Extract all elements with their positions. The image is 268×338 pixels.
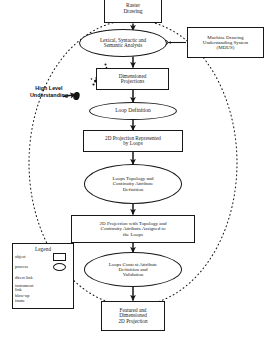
node-projection-with-topology-label: 2D Projection with Topology andContinuit…: [99, 221, 168, 236]
node-loops-topology-label: Loops Topology andContinuity AttributeDe…: [111, 176, 154, 191]
legend-item-process-label: process: [15, 265, 48, 269]
legend-item-process: process: [13, 262, 73, 273]
legend-title: Legend: [13, 244, 73, 252]
node-dimensioned-projections[interactable]: DimensionedProjections: [96, 68, 169, 90]
rectangle-shape-icon: [48, 253, 70, 261]
node-loops-context-label: Loops Context AttributeDefinition andVal…: [108, 262, 159, 277]
node-projection-by-loops-label: 2D Projection Representedby Loops: [104, 136, 162, 147]
legend-item-object: object: [13, 252, 73, 263]
node-featured-projection-label: Featured andDimensioned2D Projection: [118, 308, 149, 324]
legend-item-direct-link: direct link: [13, 273, 73, 284]
node-projection-by-loops[interactable]: 2D Projection Representedby Loops: [83, 130, 183, 152]
legend-item-blow-up-frame-label: blow-upframe: [15, 294, 48, 303]
node-loops-context[interactable]: Loops Context AttributeDefinition andVal…: [84, 252, 182, 287]
node-loop-definition-label: Loop Definition: [114, 108, 152, 114]
node-projection-with-topology[interactable]: 2D Projection with Topology andContinuit…: [71, 215, 195, 243]
node-raster-drawing[interactable]: RasterDrawing: [104, 0, 162, 23]
node-mdus-label: Machine DrawingUnderstanding System(MDUS…: [202, 35, 249, 50]
node-loops-topology[interactable]: Loops Topology andContinuity AttributeDe…: [84, 164, 182, 204]
node-lexical-analysis[interactable]: Lexical, Syntactic andSemantic Analysis: [79, 29, 167, 57]
node-dimensioned-projections-label: DimensionedProjections: [118, 74, 148, 85]
legend-item-blow-up-frame: blow-upframe: [13, 294, 73, 305]
legend-item-instrument-link: instrumentlink: [13, 283, 73, 294]
legend-item-object-label: object: [15, 255, 48, 259]
ellipse-shape-icon: [48, 263, 70, 271]
node-raster-drawing-label: RasterDrawing: [122, 3, 143, 14]
node-lexical-analysis-label: Lexical, Syntactic andSemantic Analysis: [99, 38, 147, 49]
legend-panel: Legend object process direct link instru…: [12, 243, 74, 309]
diagram-canvas: RasterDrawing Lexical, Syntactic andSema…: [0, 0, 268, 338]
node-featured-projection[interactable]: Featured andDimensioned2D Projection: [101, 301, 165, 331]
legend-item-instrument-link-label: instrumentlink: [15, 284, 48, 293]
node-mdus[interactable]: Machine DrawingUnderstanding System(MDUS…: [187, 27, 264, 58]
node-loop-definition[interactable]: Loop Definition: [89, 102, 177, 120]
annotation-high-level-understanding: High LevelUnderstanding: [20, 85, 78, 98]
legend-item-direct-link-label: direct link: [15, 276, 48, 280]
